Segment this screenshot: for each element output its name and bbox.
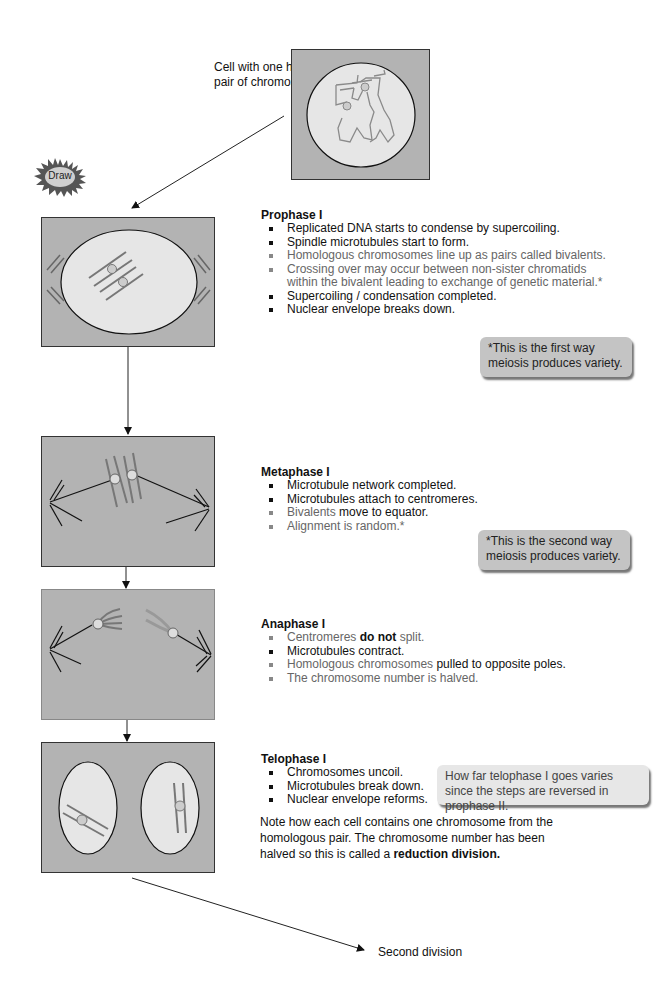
prophase-text: Prophase I Replicated DNA starts to cond…	[261, 208, 656, 317]
bullet: Microtubules attach to centromeres.	[267, 493, 656, 507]
bullet: Microtubules break down.	[267, 780, 441, 794]
metaphase-cell-diagram	[41, 436, 215, 567]
telophase-cell-diagram	[41, 742, 215, 873]
anaphase-title: Anaphase I	[261, 617, 656, 631]
second-division-label: Second division	[378, 945, 462, 959]
metaphase-variety-callout: *This is the second way meiosis produces…	[478, 530, 630, 570]
intro-cell-diagram	[291, 49, 430, 180]
interphase-cell-illustration	[292, 50, 431, 181]
bullet: Homologous chromosomes pulled to opposit…	[267, 658, 656, 672]
prophase-cell-diagram	[41, 217, 215, 347]
prophase-illustration	[42, 218, 216, 348]
bullet: Homologous chromosomes line up as pairs …	[267, 249, 656, 263]
metaphase-illustration	[42, 437, 216, 568]
prophase-bullets: Replicated DNA starts to condense by sup…	[261, 222, 656, 317]
anaphase-cell-diagram	[41, 589, 215, 720]
anaphase-text: Anaphase I Centromeres do not split. Mic…	[261, 617, 656, 685]
bullet: The chromosome number is halved.	[267, 672, 656, 686]
bullet: Nuclear envelope breaks down.	[267, 303, 656, 317]
telophase-title: Telophase I	[261, 752, 441, 766]
bullet: Bivalents move to equator.	[267, 506, 656, 520]
bullet: Replicated DNA starts to condense by sup…	[267, 222, 656, 236]
telophase-text: Telophase I Chromosomes uncoil. Microtub…	[261, 752, 441, 807]
bullet: Supercoiling / condensation completed.	[267, 290, 656, 304]
telophase-illustration	[42, 743, 216, 874]
prophase-title: Prophase I	[261, 208, 656, 222]
bullet: Microtubules contract.	[267, 645, 656, 659]
anaphase-illustration	[42, 590, 216, 721]
metaphase-title: Metaphase I	[261, 465, 656, 479]
metaphase-bullets: Microtubule network completed. Microtubu…	[261, 479, 656, 533]
metaphase-text: Metaphase I Microtubule network complete…	[261, 465, 656, 533]
bullet: Chromosomes uncoil.	[267, 766, 441, 780]
bullet: Centromeres do not split.	[267, 631, 656, 645]
reduction-division-note: Note how each cell contains one chromoso…	[260, 814, 560, 862]
bullet: Crossing over may occur between non-sist…	[267, 263, 617, 290]
telophase-callout: How far telophase I goes varies since th…	[437, 765, 649, 805]
draw-badge[interactable]: Draw	[33, 157, 87, 197]
bullet: Microtubule network completed.	[267, 479, 656, 493]
prophase-variety-callout: *This is the first way meiosis produces …	[480, 337, 632, 377]
telophase-bullets: Chromosomes uncoil. Microtubules break d…	[261, 766, 441, 807]
bullet: Nuclear envelope reforms.	[267, 793, 441, 807]
bullet: Spindle microtubules start to form.	[267, 236, 656, 250]
anaphase-bullets: Centromeres do not split. Microtubules c…	[261, 631, 656, 685]
